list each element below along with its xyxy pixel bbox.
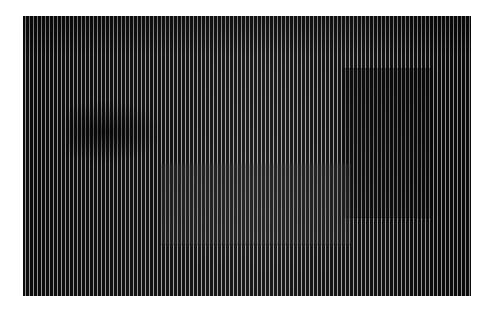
striped-artwork xyxy=(23,16,471,296)
vertical-stripes-light xyxy=(23,16,471,296)
